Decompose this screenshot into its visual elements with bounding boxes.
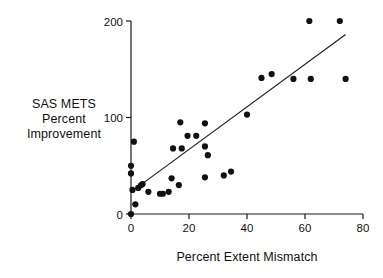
data-point: [177, 119, 183, 125]
x-tick-label: 80: [357, 222, 370, 234]
data-point: [128, 163, 134, 169]
data-point: [140, 181, 146, 187]
x-axis-title: Percent Extent Mismatch: [131, 250, 363, 264]
data-point: [244, 112, 250, 118]
data-point: [193, 133, 199, 139]
data-point: [131, 139, 137, 145]
data-point: [269, 71, 275, 77]
x-tick-group: 020406080: [128, 214, 370, 234]
data-point: [228, 168, 234, 174]
data-point: [221, 172, 227, 178]
data-point: [337, 18, 343, 24]
x-tick-label: 40: [241, 222, 254, 234]
regression-line: [134, 35, 346, 190]
data-point: [202, 120, 208, 126]
data-point: [170, 145, 176, 151]
x-tick-label: 20: [183, 222, 196, 234]
data-point: [132, 201, 138, 207]
scatter-plot-figure: SAS METS Percent Improvement Percent Ext…: [0, 0, 383, 278]
data-point: [202, 174, 208, 180]
data-point: [128, 170, 134, 176]
data-point: [129, 187, 135, 193]
data-point: [128, 211, 134, 217]
y-axis-title: SAS METS Percent Improvement: [8, 97, 120, 142]
data-point-group: [128, 18, 349, 217]
data-point: [160, 191, 166, 197]
data-point: [308, 76, 314, 82]
y-axis-title-line-1: SAS METS: [8, 97, 120, 112]
data-point: [179, 145, 185, 151]
data-point: [166, 189, 172, 195]
data-point: [343, 76, 349, 82]
x-tick-label: 60: [299, 222, 312, 234]
y-tick-label: 0: [117, 209, 123, 221]
data-point: [169, 175, 175, 181]
y-axis-title-line-3: Improvement: [8, 127, 120, 142]
y-tick-label: 200: [104, 16, 123, 28]
regression-line-segment: [134, 35, 346, 190]
data-point: [176, 182, 182, 188]
data-point: [145, 189, 151, 195]
data-point: [290, 76, 296, 82]
data-point: [306, 18, 312, 24]
data-point: [258, 75, 264, 81]
x-tick-label: 0: [128, 222, 134, 234]
data-point: [205, 152, 211, 158]
data-point: [202, 143, 208, 149]
data-point: [184, 133, 190, 139]
y-axis-title-line-2: Percent: [8, 112, 120, 127]
